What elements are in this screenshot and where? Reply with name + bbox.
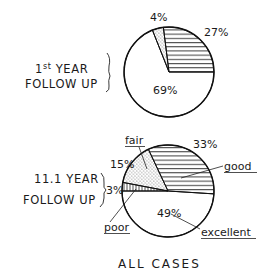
bottom-pct-fair: 15% [110,158,134,171]
top-title-line-1: 1st YEAR [35,62,88,76]
bottom-title-line-1: 11.1 YEAR [34,172,99,186]
bottom-pct-poor: 3% [106,184,123,197]
label-good: good [224,160,251,173]
label-fair: fair [125,134,144,147]
top-title-line-2: FOLLOW UP [25,77,98,91]
bottom-pct-excellent: 49% [157,207,181,220]
top-pct-good: 27% [204,26,228,39]
label-excellent: excellent [201,226,252,239]
pie-11-1-year [122,145,214,237]
bottom-title-line-2: FOLLOW UP [23,193,96,207]
top-pct-excellent: 69% [153,84,177,97]
top-brace [106,53,110,92]
top-pct-fair: 4% [150,11,167,24]
caption: ALL CASES [118,257,201,271]
chart-canvas: 1st YEAR FOLLOW UP 4% 27% 69% 11.1 YEAR … [0,0,273,273]
label-poor: poor [104,221,129,234]
bottom-pct-good: 33% [193,138,217,151]
pie-1st-year [124,27,214,117]
